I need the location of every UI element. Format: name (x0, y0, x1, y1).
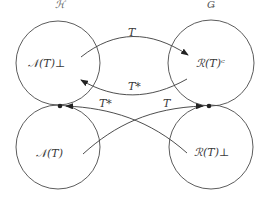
arrow-t-top (81, 36, 188, 57)
node-range-perp: ℛ(T)⊥ (194, 147, 229, 158)
arrow-t-cross (83, 106, 203, 154)
arrow-label-t-top: T (128, 27, 135, 38)
node-null-perp: 𝒩(T)⊥ (28, 58, 65, 69)
node-range-closure: ℛ(T)ᶜ (196, 58, 225, 69)
arrow-label-tstar-cross: T* (99, 98, 112, 109)
junction-right-dot (207, 104, 212, 109)
space-label-g: Ǥ (207, 0, 215, 10)
node-null: 𝒩(T) (36, 148, 63, 159)
arrow-label-t-cross: T (163, 98, 170, 109)
diagram-canvas (0, 0, 276, 210)
space-label-h: ℋ (55, 0, 65, 10)
junction-left-dot (58, 104, 63, 109)
arrow-label-tstar-top: T* (128, 81, 141, 92)
